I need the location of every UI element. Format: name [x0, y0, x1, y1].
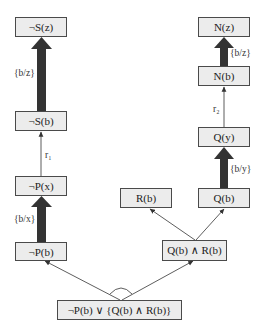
- node-r-b: R(b): [120, 188, 172, 208]
- edges-layer: [0, 0, 265, 334]
- node-q-b: Q(b): [198, 188, 250, 208]
- node-q-and-r: Q(b) ∧ R(b): [162, 240, 227, 261]
- arrow-root-to-q-and-r: [122, 261, 193, 300]
- and-arc: [110, 288, 132, 294]
- node-not-s-z: ¬S(z): [15, 17, 67, 37]
- node-n-z: N(z): [198, 17, 250, 37]
- label-b-z-right: {b/z}: [230, 48, 251, 58]
- arrow-q-and-r-to-q-b: [196, 209, 224, 240]
- label-r1: r₁: [45, 150, 51, 160]
- label-r2: r₂: [213, 104, 219, 114]
- node-root: ¬P(b) ∨ {Q(b) ∧ R(b)}: [57, 300, 182, 320]
- arrow-root-to-not-p-b: [45, 261, 120, 300]
- node-not-s-b: ¬S(b): [15, 111, 67, 131]
- node-not-p-x: ¬P(x): [15, 176, 67, 196]
- node-not-p-b: ¬P(b): [15, 242, 67, 261]
- label-b-y: {b/y}: [230, 164, 251, 174]
- faint-caption: [72, 322, 192, 330]
- node-n-b: N(b): [198, 66, 250, 86]
- and-or-graph-diagram: ¬S(z) ¬S(b) ¬P(x) ¬P(b) N(z) N(b) Q(y) Q…: [0, 0, 265, 334]
- label-b-z-left: {b/z}: [14, 68, 35, 78]
- arrow-q-and-r-to-r-b: [150, 209, 195, 240]
- label-b-x: {b/x}: [14, 214, 35, 224]
- node-q-y: Q(y): [198, 127, 250, 147]
